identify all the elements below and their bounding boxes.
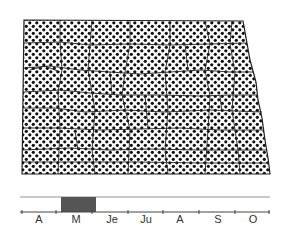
season-timeline [20,197,270,214]
month-label-april: A [35,213,42,225]
active-period-bar [61,197,96,212]
month-label-june: Je [106,213,118,225]
month-label-july: Ju [140,213,152,225]
month-label-may: M [71,213,80,225]
month-label-september: S [214,213,221,225]
map-figure [0,0,297,235]
month-label-august: A [176,213,183,225]
month-label-october: O [249,213,258,225]
